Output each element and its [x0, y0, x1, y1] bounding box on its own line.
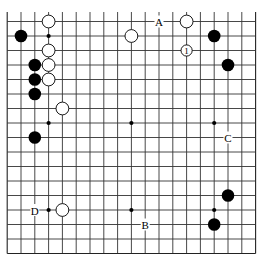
black-stone [29, 73, 42, 86]
star-point [47, 121, 51, 125]
star-point [129, 121, 133, 125]
black-stone-icon [208, 218, 221, 231]
black-stone-icon [222, 59, 235, 72]
label-a: A [155, 16, 164, 29]
go-board: 1 ACBD [0, 0, 259, 264]
white-stone-icon [56, 102, 69, 115]
black-stone [29, 88, 42, 101]
black-stone [222, 189, 235, 202]
white-stone [42, 44, 55, 57]
white-stone [56, 102, 69, 115]
black-stone [208, 30, 221, 43]
label-text: B [142, 219, 149, 231]
black-stone-icon [29, 131, 42, 144]
white-stone-icon [42, 59, 55, 72]
white-stone-icon [125, 30, 138, 43]
label-c: C [224, 132, 233, 145]
move-number: 1 [184, 46, 189, 56]
white-stone-icon [180, 15, 193, 28]
black-stone [29, 131, 42, 144]
white-stone-icon [42, 73, 55, 86]
label-d: D [30, 204, 39, 217]
white-stone [56, 204, 69, 217]
white-stone [42, 73, 55, 86]
black-stone-icon [29, 88, 42, 101]
white-stone [180, 15, 193, 28]
star-point [47, 34, 51, 38]
label-text: C [224, 132, 231, 144]
black-stone [29, 59, 42, 72]
white-stone [42, 59, 55, 72]
white-stone [42, 15, 55, 28]
white-stone [125, 30, 138, 43]
label-text: D [31, 205, 39, 217]
star-point [212, 208, 216, 212]
white-stone: 1 [181, 45, 192, 56]
white-stone-icon [56, 204, 69, 217]
star-point [212, 121, 216, 125]
label-b: B [141, 219, 150, 232]
black-stone [15, 30, 28, 43]
black-stone-icon [29, 73, 42, 86]
black-stone-icon [15, 30, 28, 43]
black-stone [222, 59, 235, 72]
white-stone-icon [42, 44, 55, 57]
black-stone-icon [29, 59, 42, 72]
white-stone-icon [42, 15, 55, 28]
go-board-diagram: 1 ACBD [0, 0, 259, 264]
star-point [129, 208, 133, 212]
label-text: A [155, 16, 163, 28]
star-point [47, 208, 51, 212]
black-stone [208, 218, 221, 231]
black-stone-icon [208, 30, 221, 43]
black-stone-icon [222, 189, 235, 202]
